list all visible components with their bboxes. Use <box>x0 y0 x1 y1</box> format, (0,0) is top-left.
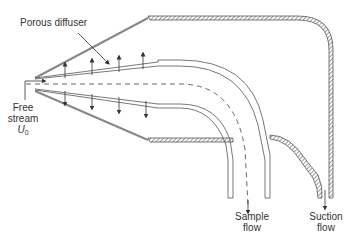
diffuser-upper-wall <box>35 60 270 198</box>
sample-flow-label-line2: flow <box>232 222 272 233</box>
free-stream-symbol-u: U <box>17 124 24 135</box>
sample-flow-label: Sample flow <box>232 211 272 233</box>
sample-flow-label-line1: Sample <box>232 211 272 222</box>
porous-diffuser-label: Porous diffuser <box>20 17 87 28</box>
lower-housing-wall <box>148 138 233 142</box>
free-stream-symbol-subscript: 0 <box>25 129 29 136</box>
diffuser-suction-arrows-lower <box>65 91 146 116</box>
free-stream-label: Free stream U0 <box>3 102 43 138</box>
suction-flow-label: Suction flow <box>305 211 347 233</box>
suction-flow-label-line2: flow <box>305 222 347 233</box>
outer-housing-wall <box>148 16 333 198</box>
suction-duct-wall <box>270 135 322 198</box>
free-stream-label-line1: Free <box>3 102 43 113</box>
probe-diagram <box>0 0 352 240</box>
free-stream-label-line2: stream <box>3 113 43 124</box>
diffuser-lower-wall <box>35 89 233 198</box>
porous-diffuser-leader <box>78 33 108 63</box>
free-stream-symbol: U0 <box>3 124 43 138</box>
suction-flow-label-line1: Suction <box>305 211 347 222</box>
